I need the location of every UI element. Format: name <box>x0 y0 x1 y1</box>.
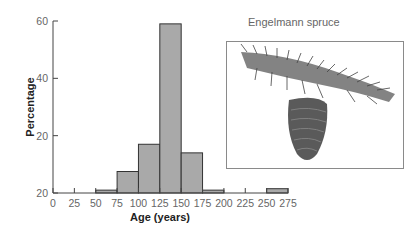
x-axis-title: Age (years) <box>130 211 190 223</box>
x-tick-label: 100 <box>130 197 148 209</box>
x-tick-label: 250 <box>258 197 276 209</box>
histogram-bar <box>117 172 138 194</box>
y-tick-label: 20 <box>36 187 48 199</box>
x-tick-label: 275 <box>279 197 297 209</box>
y-tick-label: 20 <box>36 130 48 142</box>
x-tick-label: 0 <box>50 197 56 209</box>
x-tick-label: 150 <box>172 197 190 209</box>
x-tick-label: 225 <box>237 197 255 209</box>
spruce-illustration <box>226 41 404 169</box>
histogram-bar <box>160 24 181 193</box>
x-tick-label: 25 <box>69 197 81 209</box>
x-tick-label: 125 <box>151 197 169 209</box>
y-tick-label: 40 <box>36 72 48 84</box>
histogram-bar <box>138 144 159 193</box>
y-axis-title: Percentage <box>24 77 36 136</box>
y-tick-label: 60 <box>36 15 48 27</box>
x-tick-label: 200 <box>215 197 233 209</box>
x-tick-label: 175 <box>194 197 212 209</box>
spruce-branch-icon <box>227 42 403 168</box>
inset-title: Engelmann spruce <box>248 16 340 28</box>
histogram-bar <box>267 189 288 193</box>
histogram-bar <box>181 153 202 193</box>
x-tick-label: 50 <box>90 197 102 209</box>
x-tick-label: 75 <box>111 197 123 209</box>
